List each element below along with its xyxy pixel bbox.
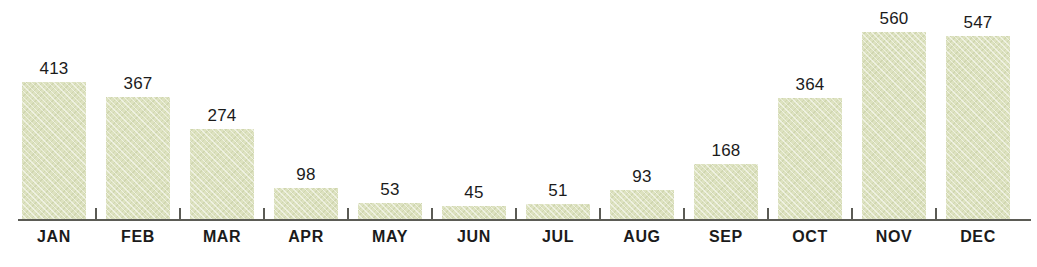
bar-value-label-may: 53 [380,181,399,198]
axis-tick [935,208,937,219]
x-axis-line [18,219,1031,221]
bar-value-label-sep: 168 [712,142,741,159]
bar-value-label-jun: 45 [464,184,483,201]
bar-value-label-apr: 98 [296,166,315,183]
category-label-dec: DEC [946,227,1010,247]
bar-group: 53 [358,173,422,221]
bar-nov[interactable] [862,32,926,221]
bar-value-label-mar: 274 [208,107,237,124]
axis-tick [95,208,97,219]
bar-dec[interactable] [946,36,1010,221]
category-label-jul: JUL [526,227,590,247]
bar-group: 98 [274,158,338,221]
axis-tick [515,208,517,219]
category-label-may: MAY [358,227,422,247]
category-label-jun: JUN [442,227,506,247]
bar-aug[interactable] [610,190,674,221]
bar-value-label-oct: 364 [796,76,825,93]
category-label-apr: APR [274,227,338,247]
bar-value-label-jul: 51 [548,182,567,199]
bar-group: 51 [526,174,590,221]
category-label-sep: SEP [694,227,758,247]
x-axis-category-labels: JANFEBMARAPRMAYJUNJULAUGSEPOCTNOVDEC [0,227,1037,255]
axis-tick [599,208,601,219]
category-label-oct: OCT [778,227,842,247]
bar-group: 93 [610,160,674,221]
bar-oct[interactable] [778,98,842,221]
bar-value-label-aug: 93 [632,168,651,185]
bar-apr[interactable] [274,188,338,221]
bar-group: 367 [106,67,170,221]
bar-jan[interactable] [22,82,86,221]
bar-group: 45 [442,176,506,221]
category-label-nov: NOV [862,227,926,247]
plot-area: 4133672749853455193168364560547 [0,0,1037,221]
bar-group: 168 [694,134,758,221]
bar-group: 274 [190,99,254,221]
bar-group: 364 [778,68,842,221]
bar-chart: 4133672749853455193168364560547 JANFEBMA… [0,0,1037,267]
bar-value-label-dec: 547 [964,14,993,31]
bar-group: 413 [22,52,86,221]
bar-group: 560 [862,2,926,221]
bar-value-label-jan: 413 [40,60,69,77]
bar-feb[interactable] [106,97,170,221]
category-label-mar: MAR [190,227,254,247]
axis-tick [851,208,853,219]
axis-tick [263,208,265,219]
axis-tick [179,208,181,219]
axis-tick [347,208,349,219]
bar-value-label-feb: 367 [124,75,153,92]
axis-tick [683,208,685,219]
bar-mar[interactable] [190,129,254,221]
category-label-feb: FEB [106,227,170,247]
bar-group: 547 [946,6,1010,221]
category-label-jan: JAN [22,227,86,247]
bar-sep[interactable] [694,164,758,221]
category-label-aug: AUG [610,227,674,247]
axis-tick [767,208,769,219]
bar-value-label-nov: 560 [880,10,909,27]
axis-tick [431,208,433,219]
